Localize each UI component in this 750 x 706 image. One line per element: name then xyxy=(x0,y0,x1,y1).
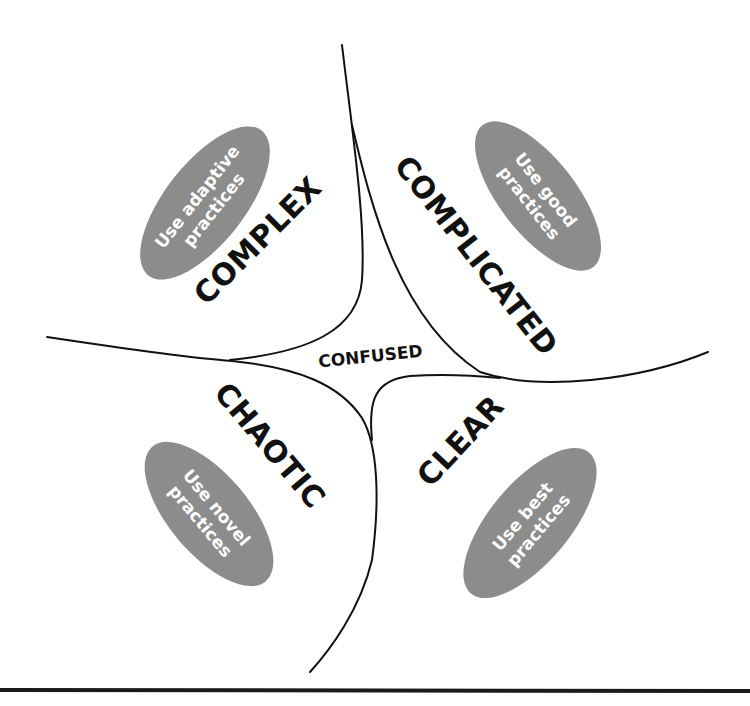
cynefin-diagram: Use adaptive practices COMPLEX Use good … xyxy=(0,0,750,706)
domain-complicated: Use good practices COMPLICATED xyxy=(387,102,623,363)
domain-chaotic: Use novel practices CHAOTIC xyxy=(122,375,333,607)
domain-clear: Use best practices CLEAR xyxy=(410,389,620,620)
domain-label-clear: CLEAR xyxy=(410,389,511,494)
center-label-confused: CONFUSED xyxy=(317,341,423,372)
domain-complex: Use adaptive practices COMPLEX xyxy=(117,106,329,312)
bottom-rule xyxy=(0,690,750,691)
